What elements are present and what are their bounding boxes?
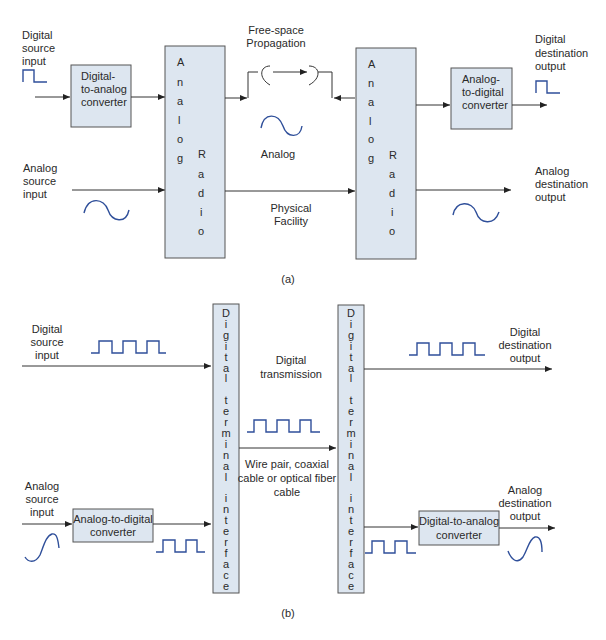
svg-text:o: o [177,133,183,145]
svg-text:converter: converter [81,96,127,108]
svg-text:input: input [23,188,47,200]
b-analog-dest-label: Analog [508,484,542,496]
b-digital-pulse-train-icon [91,341,166,353]
svg-text:to-digital: to-digital [462,86,504,98]
a-left-antenna-icon [262,66,270,85]
svg-text:output: output [510,352,541,364]
dti-letter: e [348,580,354,592]
svg-text:Digital-: Digital- [81,70,116,82]
a-output-pulse-icon [536,81,560,93]
svg-text:converter: converter [436,529,482,541]
a-right-analog-radio [356,48,416,259]
svg-text:g: g [368,152,374,164]
dti-letter: e [223,580,229,592]
a-digital-source-label: Digital [22,29,53,41]
a-analog-source-label: Analog [23,162,57,174]
svg-text:cable: cable [274,486,300,498]
svg-text:transmission: transmission [260,368,322,380]
svg-text:a: a [177,95,184,107]
a-right-antenna-icon [309,66,318,85]
svg-text:Facility: Facility [274,215,309,227]
a-free-space-label: Free-space [248,24,304,36]
svg-text:o: o [389,225,395,237]
b-caption: (b) [281,607,294,619]
svg-text:source: source [23,175,56,187]
b-transmission-pulse-icon [247,420,320,432]
svg-text:destination: destination [498,339,551,351]
svg-text:output: output [535,191,566,203]
a-analog-label: Analog [261,148,295,160]
a-analog-wave-icon [261,116,302,135]
b-analog-source-label: Analog [25,480,59,492]
svg-text:destination: destination [535,178,588,190]
a-left-analog-radio [165,46,225,258]
svg-text:i: i [200,206,202,218]
panel-a: Digital source input Digital- to-analog … [22,24,588,285]
a-output-sine-icon [453,204,499,222]
svg-text:converter: converter [462,99,508,111]
svg-text:d: d [389,187,395,199]
b-output-sine-icon [508,537,542,561]
svg-text:d: d [198,187,204,199]
svg-text:output: output [535,60,566,72]
a-pulse-icon [23,70,47,82]
panel-b: Digital source input Analog source input… [22,304,555,619]
b-output-pulse-train-icon [409,343,485,355]
dti-letter: l [225,471,227,483]
svg-text:destination: destination [498,497,551,509]
svg-text:A: A [177,56,185,68]
svg-text:input: input [30,506,54,518]
svg-text:l: l [178,114,180,126]
svg-text:n: n [368,77,374,89]
svg-text:a: a [368,96,375,108]
b-digital-source-label: Digital [32,323,63,335]
svg-text:o: o [198,225,204,237]
svg-text:a: a [389,168,396,180]
svg-text:Digital-to-analog: Digital-to-analog [419,515,499,527]
svg-text:g: g [177,152,183,164]
svg-text:n: n [177,76,183,88]
b-medium-label: Wire pair, coaxial [245,458,329,470]
a-caption: (a) [281,273,294,285]
svg-text:to-analog: to-analog [81,83,127,95]
svg-text:a: a [198,168,205,180]
svg-text:output: output [510,510,541,522]
a-physical-label: Physical [271,202,312,214]
dti-letter: l [350,471,352,483]
b-analog-sine-icon [25,534,59,561]
svg-text:A: A [368,58,376,70]
svg-text:Analog-: Analog- [462,73,500,85]
svg-text:source: source [25,493,58,505]
svg-text:converter: converter [90,526,136,538]
a-analog-dest-label: Analog [535,165,569,177]
b-adc-pulse-icon [156,540,205,552]
svg-text:source: source [22,42,55,54]
dti-letter: l [350,372,352,384]
svg-text:cable or optical fiber: cable or optical fiber [238,472,337,484]
svg-text:Propagation: Propagation [246,37,305,49]
a-sine-icon [84,201,129,220]
svg-text:R: R [389,149,397,161]
svg-text:input: input [22,55,46,67]
svg-text:destination: destination [535,47,588,59]
b-digital-dest-label: Digital [510,326,541,338]
svg-text:input: input [35,349,59,361]
b-digital-transmission-label: Digital [276,354,307,366]
svg-text:i: i [391,206,393,218]
svg-text:l: l [369,115,371,127]
svg-text:o: o [368,133,374,145]
svg-text:R: R [198,148,206,160]
svg-text:Analog-to-digital: Analog-to-digital [73,513,153,525]
dti-letter: l [225,372,227,384]
svg-text:source: source [30,336,63,348]
a-digital-dest-label: Digital [535,33,566,45]
communication-diagram: Digital source input Digital- to-analog … [0,0,606,640]
b-dac-pulse-icon [365,541,416,553]
